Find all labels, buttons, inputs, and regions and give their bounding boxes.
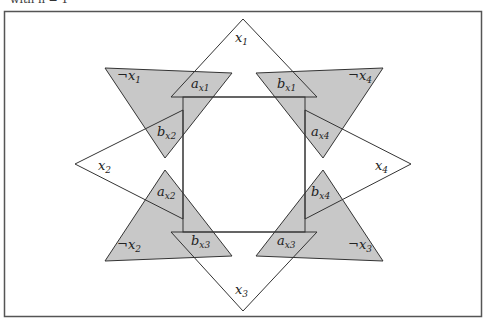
label-x2: x2 (98, 158, 111, 175)
label-x3: x3 (235, 282, 248, 299)
label-x1: x1 (235, 30, 248, 47)
gadget-diagram: x1 x2 x3 x4 ¬x1 ¬x4 ¬x2 ¬x3 ax1 bx1 bx2 … (0, 0, 486, 318)
center-square (183, 97, 305, 232)
label-x4: x4 (375, 158, 388, 175)
